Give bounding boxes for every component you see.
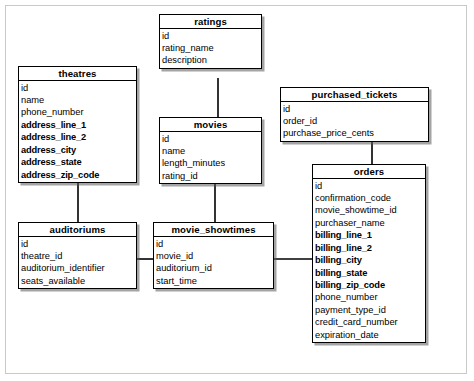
column-movies-length_minutes: length_minutes — [162, 157, 261, 169]
column-ratings-id: id — [162, 30, 261, 42]
entity-table-auditoriums[interactable]: auditoriumsidtheatre_idauditorium_identi… — [18, 222, 137, 289]
column-orders-phone_number: phone_number — [315, 291, 425, 303]
er-diagram-canvas: ratingsidrating_namedescriptiontheatresi… — [0, 0, 474, 381]
column-orders-expiration_date: expiration_date — [315, 329, 425, 341]
column-orders-billing_zip_code: billing_zip_code — [315, 279, 425, 291]
entity-title-purchased_tickets: purchased_tickets — [281, 88, 428, 102]
column-theatres-address_line_1: address_line_1 — [21, 119, 136, 131]
column-auditoriums-theatre_id: theatre_id — [21, 250, 136, 262]
column-ratings-rating_name: rating_name — [162, 42, 261, 54]
entity-table-purchased_tickets[interactable]: purchased_ticketsidorder_idpurchase_pric… — [280, 87, 429, 142]
column-orders-payment_type_id: payment_type_id — [315, 304, 425, 316]
entity-title-orders: orders — [313, 165, 425, 179]
entity-table-theatres[interactable]: theatresidnamephone_numberaddress_line_1… — [18, 66, 137, 183]
column-theatres-id: id — [21, 82, 136, 94]
entity-title-auditoriums: auditoriums — [19, 223, 136, 237]
column-auditoriums-seats_available: seats_available — [21, 275, 136, 287]
entity-columns-purchased_tickets: idorder_idpurchase_price_cents — [281, 102, 428, 141]
entity-title-ratings: ratings — [160, 15, 261, 29]
column-theatres-name: name — [21, 94, 136, 106]
entity-table-movies[interactable]: moviesidnamelength_minutesrating_id — [159, 117, 262, 184]
column-orders-billing_line_1: billing_line_1 — [315, 229, 425, 241]
column-theatres-address_city: address_city — [21, 144, 136, 156]
column-movie_showtimes-start_time: start_time — [156, 275, 273, 287]
column-auditoriums-auditorium_identifier: auditorium_identifier — [21, 262, 136, 274]
entity-columns-ratings: idrating_namedescription — [160, 29, 261, 68]
column-movies-rating_id: rating_id — [162, 170, 261, 182]
column-orders-billing_city: billing_city — [315, 254, 425, 266]
column-theatres-phone_number: phone_number — [21, 106, 136, 118]
entity-columns-movie_showtimes: idmovie_idauditorium_idstart_time — [154, 237, 273, 288]
entity-table-orders[interactable]: ordersidconfirmation_codemovie_showtime_… — [312, 164, 426, 343]
column-theatres-address_line_2: address_line_2 — [21, 131, 136, 143]
column-orders-purchaser_name: purchaser_name — [315, 217, 425, 229]
entity-table-ratings[interactable]: ratingsidrating_namedescription — [159, 14, 262, 69]
column-purchased_tickets-order_id: order_id — [283, 115, 428, 127]
column-orders-credit_card_number: credit_card_number — [315, 316, 425, 328]
column-orders-billing_state: billing_state — [315, 267, 425, 279]
column-orders-movie_showtime_id: movie_showtime_id — [315, 204, 425, 216]
entity-columns-theatres: idnamephone_numberaddress_line_1address_… — [19, 81, 136, 182]
column-purchased_tickets-purchase_price_cents: purchase_price_cents — [283, 127, 428, 139]
entity-columns-auditoriums: idtheatre_idauditorium_identifierseats_a… — [19, 237, 136, 288]
entity-columns-movies: idnamelength_minutesrating_id — [160, 132, 261, 183]
column-movie_showtimes-movie_id: movie_id — [156, 250, 273, 262]
column-orders-billing_line_2: billing_line_2 — [315, 242, 425, 254]
column-movie_showtimes-auditorium_id: auditorium_id — [156, 262, 273, 274]
entity-table-movie_showtimes[interactable]: movie_showtimesidmovie_idauditorium_idst… — [153, 222, 274, 289]
column-theatres-address_zip_code: address_zip_code — [21, 169, 136, 181]
column-movies-name: name — [162, 145, 261, 157]
entity-title-movie_showtimes: movie_showtimes — [154, 223, 273, 237]
column-ratings-description: description — [162, 54, 261, 66]
column-theatres-address_state: address_state — [21, 156, 136, 168]
entity-title-theatres: theatres — [19, 67, 136, 81]
column-orders-id: id — [315, 180, 425, 192]
column-auditoriums-id: id — [21, 238, 136, 250]
column-movies-id: id — [162, 133, 261, 145]
entity-columns-orders: idconfirmation_codemovie_showtime_idpurc… — [313, 179, 425, 342]
column-purchased_tickets-id: id — [283, 103, 428, 115]
column-movie_showtimes-id: id — [156, 238, 273, 250]
entity-title-movies: movies — [160, 118, 261, 132]
column-orders-confirmation_code: confirmation_code — [315, 192, 425, 204]
